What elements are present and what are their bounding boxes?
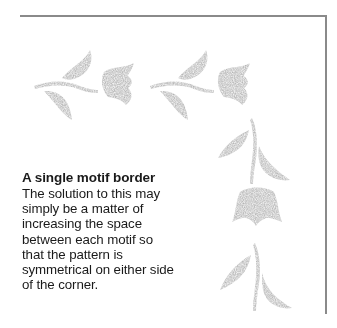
leaf-motif-vertical-2	[220, 243, 292, 311]
leaf-motif-vertical-corner	[218, 118, 290, 184]
tulip-motif-horizontal-1	[34, 50, 134, 120]
caption-line: of the corner.	[22, 277, 202, 292]
caption-line: simply be a matter of	[22, 201, 202, 216]
caption-line: that the pattern is	[22, 247, 202, 262]
caption-line: symmetrical on either side	[22, 262, 202, 277]
caption-title: A single motif border	[22, 170, 202, 186]
caption-line: between each motif so	[22, 232, 202, 247]
tulip-head-vertical	[232, 188, 282, 227]
caption-line: The solution to this may	[22, 186, 202, 201]
caption-line: increasing the space	[22, 216, 202, 231]
caption-block: A single motif border The solution to th…	[22, 170, 202, 292]
tulip-motif-horizontal-2	[150, 50, 250, 120]
caption-body: The solution to this may simply be a mat…	[22, 186, 202, 292]
